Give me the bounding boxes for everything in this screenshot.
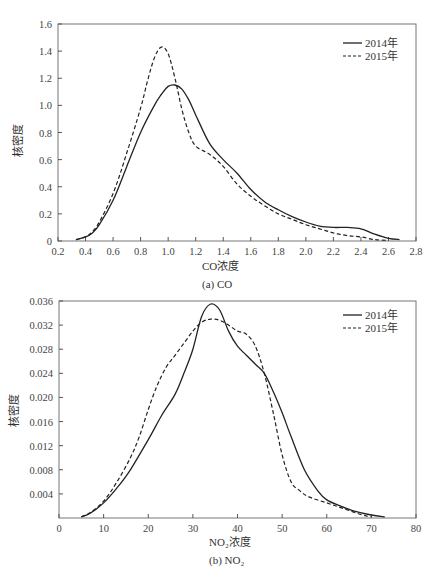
legend-co: 2014年 2015年 xyxy=(343,36,398,62)
caption-no2: (b) NO₂ xyxy=(209,554,244,567)
x-tick-label: 1.2 xyxy=(189,246,202,257)
x-tick-label: 50 xyxy=(277,523,288,534)
chart-co: 0.20.40.60.81.01.21.41.61.82.02.22.42.62… xyxy=(11,19,423,291)
caption-co: (a) CO xyxy=(202,278,232,291)
x-tick-label: 60 xyxy=(322,523,333,534)
x-tick-label: 2.6 xyxy=(382,246,395,257)
figure: 0.20.40.60.81.01.21.41.61.82.02.22.42.62… xyxy=(0,0,437,576)
y-axis-label-co: 核密度 xyxy=(11,124,24,157)
y-tick-label: 0.004 xyxy=(29,489,53,500)
y-tick-label: 0.028 xyxy=(29,344,53,355)
x-tick-label: 1.0 xyxy=(162,246,175,257)
y-tick-label: 0.4 xyxy=(39,182,53,193)
legend-label-2015: 2015年 xyxy=(365,49,398,62)
y-tick-label: 0.8 xyxy=(39,128,52,139)
x-axis-label-no2: NO₂浓度 xyxy=(209,535,251,548)
plot-frame-co xyxy=(58,24,416,241)
y-tick-label: 1.2 xyxy=(39,73,52,84)
y-tick-label: 0.008 xyxy=(29,465,53,476)
series-2014-co xyxy=(76,85,400,240)
x-tick-label: 1.8 xyxy=(272,246,285,257)
x-tick-label: 1.4 xyxy=(217,246,231,257)
x-tick-label: 20 xyxy=(143,523,154,534)
series-2015-no2 xyxy=(81,319,371,517)
axis-ticks-no2: 010203040506070800.0040.0080.0120.0160.0… xyxy=(29,296,421,534)
legend-no2: 2014年 2015年 xyxy=(343,308,398,334)
x-tick-label: 2.0 xyxy=(299,246,312,257)
x-tick-label: 80 xyxy=(411,523,422,534)
series-2015-co xyxy=(76,47,389,240)
x-tick-label: 2.2 xyxy=(327,246,340,257)
legend-label-2014: 2014年 xyxy=(365,308,398,321)
y-tick-label: 0.012 xyxy=(29,441,53,452)
y-tick-label: 0.024 xyxy=(29,368,53,379)
y-tick-label: 0.036 xyxy=(29,296,53,307)
x-axis-label-co: CO浓度 xyxy=(202,259,239,272)
x-tick-label: 70 xyxy=(366,523,377,534)
series-2014-no2 xyxy=(81,304,385,517)
x-tick-label: 40 xyxy=(232,523,243,534)
y-tick-label: 1.0 xyxy=(39,100,52,111)
x-tick-label: 30 xyxy=(188,523,199,534)
y-tick-label: 0 xyxy=(47,236,52,247)
legend-label-2014: 2014年 xyxy=(365,36,398,49)
plot-frame-no2 xyxy=(59,301,416,518)
y-tick-label: 1.6 xyxy=(39,19,52,30)
y-tick-label: 1.4 xyxy=(39,46,53,57)
y-tick-label: 0.032 xyxy=(29,320,53,331)
x-tick-label: 1.6 xyxy=(244,246,257,257)
x-tick-label: 2.8 xyxy=(409,246,422,257)
x-tick-label: 0.8 xyxy=(134,246,147,257)
legend-label-2015: 2015年 xyxy=(365,321,398,334)
x-tick-label: 0 xyxy=(56,523,61,534)
x-tick-label: 0.4 xyxy=(79,246,93,257)
y-tick-label: 0.020 xyxy=(29,392,53,403)
y-tick-label: 0.016 xyxy=(29,417,53,428)
x-tick-label: 0.6 xyxy=(107,246,120,257)
x-tick-label: 2.4 xyxy=(354,246,368,257)
chart-no2: 010203040506070800.0040.0080.0120.0160.0… xyxy=(7,296,421,567)
y-tick-label: 0.2 xyxy=(39,209,52,220)
y-tick-label: 0.6 xyxy=(39,155,52,166)
x-tick-label: 10 xyxy=(98,523,109,534)
x-tick-label: 0.2 xyxy=(51,246,64,257)
y-axis-label-no2: 核密度 xyxy=(7,394,20,427)
